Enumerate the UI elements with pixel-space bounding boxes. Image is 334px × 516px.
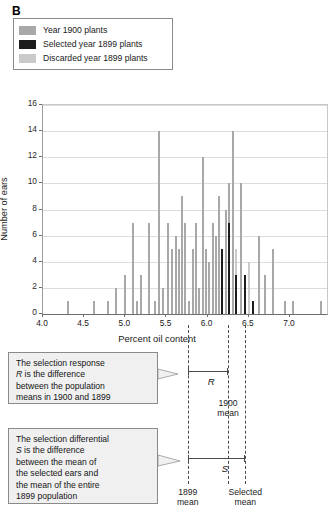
y-tick-mark-6 [39, 235, 42, 236]
y-tick-mark-8 [39, 209, 42, 210]
callout-line: means in 1900 and 1899 [16, 392, 150, 403]
histogram-bar [232, 131, 234, 314]
histogram-bar [148, 223, 150, 314]
histogram-bar [272, 249, 274, 314]
bracket-S [188, 455, 246, 462]
y-axis-label: Number of ears [0, 177, 9, 240]
legend-swatch-discarded-1899 [19, 54, 36, 63]
bracket-tick-right [244, 455, 245, 462]
x-tick-mark-4.5 [83, 314, 84, 317]
histogram-bar [132, 223, 134, 314]
y-tick-label-12: 12 [0, 150, 37, 160]
bracket-R-label: R [208, 376, 215, 387]
histogram-bar [252, 301, 254, 314]
histogram-bar [124, 275, 126, 314]
bracket-S-label: S [222, 463, 228, 474]
y-tick-mark-2 [39, 287, 42, 288]
bracket-tick-left [188, 455, 189, 462]
histogram-bar [198, 288, 200, 314]
reference-label-line1: Selected [213, 487, 277, 497]
histogram-bar [184, 223, 186, 314]
x-tick-mark-6.0 [207, 314, 208, 317]
legend-swatch-selected-1899 [19, 40, 36, 49]
histogram-bar [244, 275, 246, 314]
legend-label-discarded-1899: Discarded year 1899 plants [43, 54, 148, 63]
histogram-bar [235, 275, 237, 314]
callout-line: the mean of the entire [16, 480, 150, 491]
reference-label-line1: 1900 [196, 398, 260, 408]
legend-item-discarded-1899: Discarded year 1899 plants [19, 51, 167, 65]
histogram-bar [202, 157, 204, 314]
callout-line: The selection response [16, 358, 150, 369]
x-tick-label-6.5: 6.5 [228, 318, 268, 328]
y-tick-label-14: 14 [0, 124, 37, 134]
histogram-bar [248, 262, 250, 314]
callout-line: S is the difference [16, 445, 150, 456]
y-tick-mark-10 [39, 182, 42, 183]
y-tick-label-2: 2 [0, 281, 37, 291]
histogram-bar [212, 223, 214, 314]
x-tick-label-4.5: 4.5 [63, 318, 103, 328]
y-tick-mark-4 [39, 261, 42, 262]
callout-line: 1899 population [16, 491, 150, 502]
histogram-bar [140, 275, 142, 314]
histogram-bars [43, 105, 327, 314]
x-axis-label: Percent oil content [42, 333, 272, 344]
reference-label-mean-selected: Selectedmean [213, 487, 277, 507]
histogram-bar [192, 249, 194, 314]
histogram-bar [175, 236, 177, 314]
callout-line: between the mean of [16, 457, 150, 468]
y-tick-label-0: 0 [0, 307, 37, 317]
histogram-bar [225, 210, 227, 315]
legend: Year 1900 plantsSelected year 1899 plant… [13, 18, 173, 70]
histogram-bar [162, 288, 164, 314]
histogram-bar [158, 131, 160, 314]
histogram-plot [42, 104, 328, 315]
y-tick-mark-12 [39, 156, 42, 157]
histogram-bar [115, 288, 117, 314]
callout-selection-differential: The selection differentialS is the diffe… [8, 428, 158, 504]
callout-selection-response: The selection responseR is the differenc… [8, 352, 158, 404]
legend-label-selected-1899: Selected year 1899 plants [43, 40, 142, 49]
bracket-line [188, 371, 228, 372]
histogram-bar [178, 249, 180, 314]
histogram-bar [221, 249, 223, 314]
legend-label-year-1900: Year 1900 plants [43, 26, 107, 35]
y-tick-label-16: 16 [0, 98, 37, 108]
x-tick-mark-5.5 [165, 314, 166, 317]
histogram-bar [171, 249, 173, 314]
histogram-bar [208, 262, 210, 314]
x-tick-label-5.0: 5.0 [104, 318, 144, 328]
histogram-bar [154, 301, 156, 314]
legend-item-year-1900: Year 1900 plants [19, 23, 167, 37]
y-tick-mark-16 [39, 104, 42, 105]
histogram-bar [320, 301, 322, 314]
histogram-bar [258, 236, 260, 314]
histogram-bar [136, 301, 138, 314]
legend-swatch-year-1900 [19, 26, 36, 35]
reference-label-line2: mean [213, 497, 277, 507]
callout-line: between the population [16, 381, 150, 392]
x-tick-mark-4.0 [42, 314, 43, 317]
bracket-R [188, 368, 228, 375]
reference-label-mean-1899: 1899mean [156, 487, 220, 507]
histogram-bar [264, 275, 266, 314]
reference-label-line2: mean [196, 408, 260, 418]
legend-item-selected-1899: Selected year 1899 plants [19, 37, 167, 51]
x-tick-label-6.0: 6.0 [187, 318, 227, 328]
callout-line: The selection differential [16, 434, 150, 445]
x-tick-label-4.0: 4.0 [22, 318, 62, 328]
histogram-bar [188, 301, 190, 314]
histogram-bar [284, 301, 286, 314]
histogram-bar [218, 196, 220, 314]
reference-label-line2: mean [156, 497, 220, 507]
histogram-bar [215, 236, 217, 314]
reference-label-mean-1900: 1900mean [196, 398, 260, 418]
y-tick-label-4: 4 [0, 255, 37, 265]
histogram-bar [167, 223, 169, 314]
histogram-bar [181, 196, 183, 314]
bracket-line [188, 458, 246, 459]
histogram-bar [107, 301, 109, 314]
histogram-bar [240, 183, 242, 314]
bracket-tick-left [188, 368, 189, 375]
